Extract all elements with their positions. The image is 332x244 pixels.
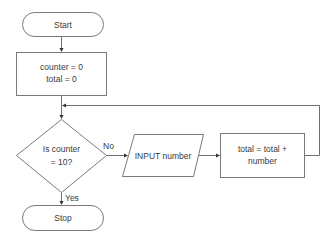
input-node: INPUT number (123, 135, 204, 177)
arrowhead-icon (60, 48, 64, 52)
decision-diamond-shape (17, 120, 107, 193)
arrow-init-to-decision (60, 96, 64, 119)
decision-line-2: = 10? (51, 157, 73, 167)
accumulate-process-node: total = total + number (221, 134, 305, 178)
input-label: INPUT number (135, 151, 192, 161)
arrow-start-to-init (60, 37, 64, 52)
arrowhead-icon (124, 154, 128, 158)
yes-edge-label: Yes (65, 193, 79, 203)
flowchart-canvas: Start counter = 0 total = 0 Is counter =… (0, 0, 332, 244)
accumulate-line-2: number (248, 156, 277, 166)
arrowhead-icon (62, 104, 66, 108)
init-line-1: counter = 0 (40, 62, 83, 72)
arrowhead-icon (60, 115, 64, 119)
decision-line-1: Is counter (43, 144, 80, 154)
arrow-decision-to-stop: Yes (60, 193, 79, 206)
arrow-input-to-accumulate (199, 154, 220, 158)
start-node: Start (23, 13, 104, 37)
init-process-node: counter = 0 total = 0 (17, 53, 107, 96)
arrowhead-icon (216, 154, 220, 158)
start-label: Start (54, 20, 73, 30)
arrow-decision-to-input: No (103, 141, 128, 158)
no-edge-label: No (103, 141, 114, 151)
init-line-2: total = 0 (46, 74, 77, 84)
decision-node: Is counter = 10? (17, 120, 107, 193)
stop-label: Stop (54, 213, 72, 223)
accumulate-line-1: total = total + (238, 144, 287, 154)
arrowhead-icon (60, 201, 64, 205)
stop-node: Stop (23, 206, 104, 231)
